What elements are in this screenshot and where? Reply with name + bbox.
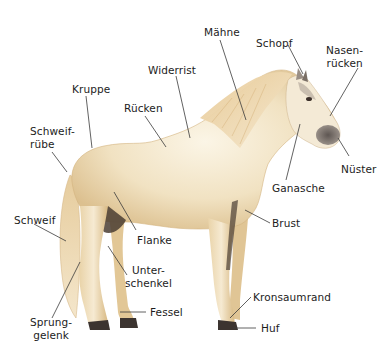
hoof-hind-far (120, 318, 138, 328)
hind-leg (79, 206, 108, 325)
label-huf: Huf (261, 322, 280, 335)
horse-anatomy-diagram: Mähne Schopf Nasen- rücken Widerrist Kru… (0, 0, 390, 360)
hoof-fore-near (218, 320, 238, 330)
label-nasenruecken: Nasen- rücken (326, 44, 363, 70)
label-schweif: Schweif (14, 214, 55, 227)
label-ruecken: Rücken (124, 102, 163, 115)
label-sprunggelenk: Sprung- gelenk (30, 316, 72, 342)
muzzle-shape (316, 125, 340, 145)
label-schopf: Schopf (256, 37, 292, 50)
label-kruppe: Kruppe (72, 83, 110, 96)
label-schweifruebe: Schweif- rübe (30, 125, 75, 151)
label-maehne: Mähne (204, 26, 240, 39)
eye (306, 97, 312, 101)
label-kronsaumrand: Kronsaumrand (253, 291, 331, 304)
label-widerrist: Widerrist (148, 64, 196, 77)
label-ganasche: Ganasche (272, 182, 325, 195)
label-flanke: Flanke (137, 234, 172, 247)
label-nuester: Nüster (341, 163, 376, 176)
label-fessel: Fessel (150, 306, 183, 319)
label-unterschenkel: Unter- schenkel (125, 264, 172, 290)
label-brust: Brust (272, 217, 300, 230)
